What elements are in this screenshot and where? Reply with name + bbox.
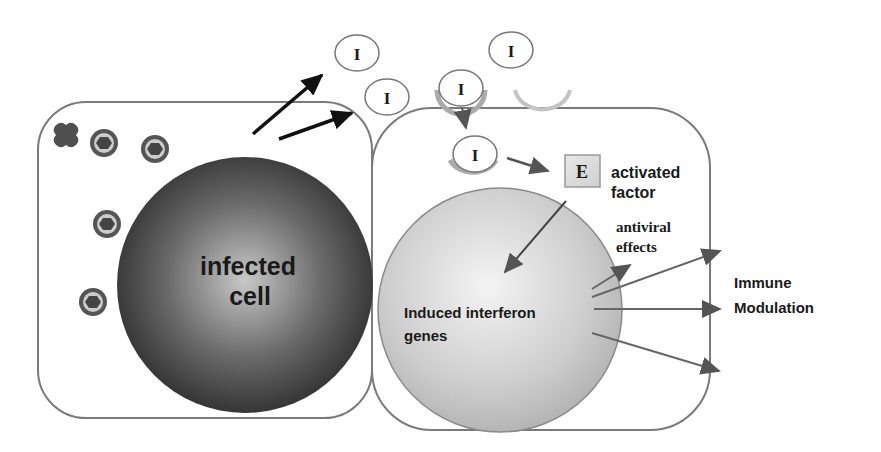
immune-label-line1: Immune [734,274,792,291]
interferon-molecule: I [335,35,379,71]
interferon-molecule: I [453,136,497,172]
secretion-arrow [279,113,352,139]
virion-icon [79,288,107,316]
infected-label-line2: cell [229,282,271,310]
interferon-molecule: I [489,32,533,68]
antiviral-label-line1: antiviral [616,219,671,235]
immune-label-line2: Modulation [734,299,814,316]
interferon-molecule: I [439,70,483,106]
gene-label-line2: genes [404,327,447,344]
activated-label-line1: activated [611,164,680,181]
internalization-arrow [462,108,466,128]
activated-factor-symbol: E [576,162,588,182]
svg-text:I: I [354,45,361,64]
receptor-icon [515,90,570,109]
activated-label-line2: factor [611,184,655,201]
virion-icon [90,129,118,157]
svg-text:I: I [384,89,391,108]
infected-label-line1: infected [200,252,296,280]
interferon-molecule: I [365,79,409,115]
svg-text:I: I [508,42,515,61]
secretion-arrow [253,75,322,134]
antiviral-label-line2: effects [616,239,657,255]
virus-icon [51,120,81,150]
interferon-pathway-diagram: infected cell Induced interferon genes I… [0,0,881,452]
svg-text:I: I [458,80,465,99]
activation-arrow [507,158,548,171]
virion-icon [93,210,121,238]
svg-text:I: I [472,146,479,165]
gene-label-line1: Induced interferon [404,304,536,321]
virion-icon [141,135,169,163]
